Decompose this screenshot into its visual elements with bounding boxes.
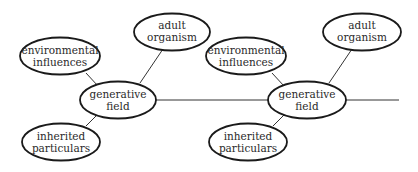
label-line1: generative bbox=[279, 88, 336, 100]
edge-right-env-to-gen bbox=[272, 73, 284, 86]
label-line1: generative bbox=[90, 88, 147, 100]
label-line2: organism bbox=[147, 31, 197, 43]
label-line2: influences bbox=[219, 56, 273, 68]
label-line2: field bbox=[295, 100, 319, 112]
label-line2: particulars bbox=[32, 142, 90, 154]
label-line1: inherited bbox=[224, 130, 273, 142]
edge-right-inherited-to-gen bbox=[273, 115, 284, 126]
node-left-generative-field: generative field bbox=[80, 82, 156, 119]
label-line1: adult bbox=[348, 19, 376, 31]
node-right-adult-organism: adult organism bbox=[323, 14, 401, 51]
label-line1: inherited bbox=[37, 130, 86, 142]
node-left-inherited-particulars: inherited particulars bbox=[22, 124, 100, 161]
edge-right-adult-to-gen bbox=[329, 49, 352, 83]
node-right-generative-field: generative field bbox=[268, 82, 346, 119]
node-left-environmental-influences: environmental influences bbox=[20, 38, 100, 75]
label-line1: adult bbox=[158, 19, 186, 31]
label-line2: particulars bbox=[219, 142, 277, 154]
label-line2: field bbox=[106, 100, 130, 112]
node-left-adult-organism: adult organism bbox=[134, 14, 210, 51]
generative-field-diagram: environmental influences adult organism … bbox=[0, 0, 418, 172]
node-right-inherited-particulars: inherited particulars bbox=[209, 124, 287, 161]
node-right-environmental-influences: environmental influences bbox=[206, 38, 286, 75]
label-line2: organism bbox=[337, 31, 387, 43]
label-line1: environmental bbox=[21, 44, 99, 56]
edge-left-inherited-to-gen bbox=[86, 115, 97, 126]
edge-left-adult-to-gen bbox=[140, 49, 163, 83]
label-line2: influences bbox=[33, 56, 87, 68]
label-line1: environmental bbox=[207, 44, 285, 56]
